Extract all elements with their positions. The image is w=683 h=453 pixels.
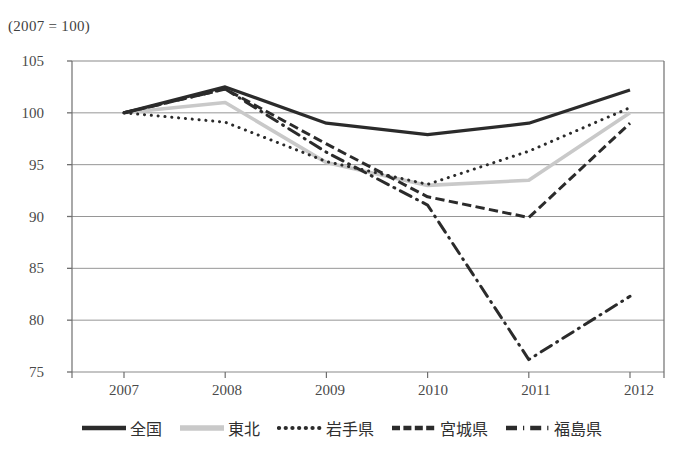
dotted-line-icon	[277, 421, 323, 435]
legend-item-fukushima[interactable]: 福島県	[505, 416, 602, 440]
series-line	[124, 89, 630, 218]
legend-item-miyagi[interactable]: 宮城県	[391, 416, 488, 440]
legend-item-tohoku[interactable]: 東北	[179, 416, 260, 440]
legend-item-label: 全国	[130, 416, 162, 440]
solid-line-light-icon	[179, 421, 225, 435]
series-layer	[124, 87, 630, 360]
legend-item-zenkoku[interactable]: 全国	[81, 416, 162, 440]
legend-item-label: 福島県	[554, 416, 602, 440]
dashed-line-icon	[391, 421, 437, 435]
dash-dot-line-icon	[505, 421, 551, 435]
legend-item-label: 岩手県	[326, 416, 374, 440]
plot-area	[0, 0, 683, 400]
legend-item-label: 東北	[228, 416, 260, 440]
legend-item-label: 宮城県	[440, 416, 488, 440]
legend-item-iwate[interactable]: 岩手県	[277, 416, 374, 440]
chart-figure: (2007 = 100) 105 100 95 90 85 80 75 2007…	[0, 0, 683, 453]
legend: 全国 東北 岩手県 宮城県 福島県	[0, 408, 683, 448]
solid-line-icon	[81, 421, 127, 435]
